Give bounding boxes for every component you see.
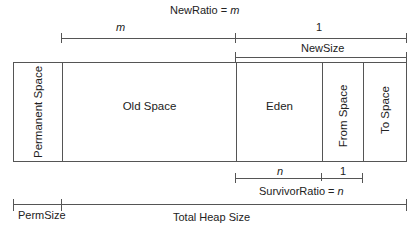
tick [235, 173, 236, 183]
new-size-label: NewSize [301, 42, 344, 54]
survivor-ratio-var: n [338, 185, 344, 197]
perm-size-label: PermSize [18, 209, 66, 221]
tick [406, 52, 407, 62]
new-size-dimension-line [235, 57, 406, 58]
heap-layout-box: Permanent Space Old Space Eden From Spac… [13, 62, 407, 162]
survivor-portion-label: 1 [340, 165, 346, 177]
eden-portion-label: n [277, 165, 283, 177]
region-label: From Space [337, 85, 349, 148]
new-ratio-label: NewRatio = m [170, 4, 239, 16]
total-heap-size-label: Total Heap Size [173, 211, 250, 223]
survivor-ratio-prefix: SurvivorRatio = [259, 185, 338, 197]
survivor-ratio-label: SurvivorRatio = n [259, 185, 344, 197]
survivor-ratio-dimension-line [235, 178, 362, 179]
total-size-dimension-line [13, 204, 406, 205]
new-ratio-prefix: NewRatio = [170, 4, 230, 16]
new-ratio-dimension-line [61, 38, 406, 39]
tick [13, 199, 14, 211]
old-portion-label: m [116, 21, 125, 33]
region-eden: Eden [236, 63, 322, 161]
region-permanent-space: Permanent Space [14, 63, 62, 161]
new-ratio-var: m [230, 4, 239, 16]
region-from-space: From Space [322, 63, 363, 161]
tick [61, 33, 62, 43]
region-label: Eden [266, 100, 293, 112]
region-label: To Space [379, 86, 391, 134]
region-old-space: Old Space [62, 63, 236, 161]
region-label: Old Space [123, 100, 177, 112]
tick [235, 52, 236, 62]
region-to-space: To Space [363, 63, 406, 161]
tick [362, 173, 363, 183]
tick [406, 33, 407, 43]
region-label: Permanent Space [32, 66, 44, 158]
tick [406, 199, 407, 211]
tick [235, 33, 236, 43]
tick [321, 173, 322, 181]
new-portion-label: 1 [316, 21, 322, 33]
